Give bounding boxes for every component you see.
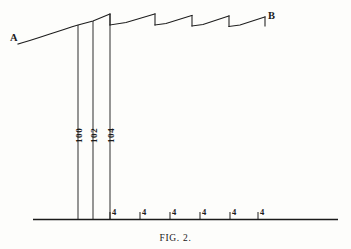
waveform-ramp-1 bbox=[110, 14, 155, 25]
tick-label: 4 bbox=[232, 208, 236, 217]
figure-caption: FIG. 2. bbox=[0, 233, 351, 243]
figure-container: A B 100 102 104 4 4 4 4 4 4 FIG. 2. bbox=[0, 0, 351, 249]
endpoint-label-b: B bbox=[268, 11, 275, 22]
waveform-trace bbox=[18, 14, 265, 44]
tick-label: 4 bbox=[172, 208, 176, 217]
waveform-initial-ramp bbox=[18, 14, 110, 44]
tick-label: 4 bbox=[260, 208, 264, 217]
tick-label: 4 bbox=[202, 208, 206, 217]
waveform-ramp-3 bbox=[192, 16, 229, 26]
waveform-ramp-2 bbox=[155, 16, 192, 26]
waveform-ramp-4 bbox=[229, 17, 265, 27]
tick-label: 4 bbox=[112, 208, 116, 217]
endpoint-label-a: A bbox=[10, 33, 18, 44]
vertical-line-label-100: 100 bbox=[75, 128, 84, 143]
vertical-line-label-102: 102 bbox=[90, 128, 99, 143]
tick-label: 4 bbox=[142, 208, 146, 217]
vertical-line-label-104: 104 bbox=[107, 128, 116, 143]
vertical-reference-lines bbox=[78, 14, 110, 219]
